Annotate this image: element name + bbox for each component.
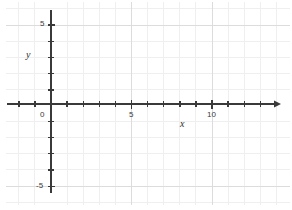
y-axis-label: y — [26, 50, 30, 60]
coordinate-plane-figure: 5 -5 0 5 10 y x — [0, 0, 292, 210]
plot-canvas — [0, 0, 292, 210]
x-axis-arrow-icon — [274, 101, 281, 108]
x-axis-label: x — [180, 119, 184, 129]
x-tick-label-0: 0 — [40, 111, 44, 119]
x-tick-label-5: 5 — [129, 111, 133, 119]
x-tick-label-10: 10 — [207, 111, 216, 119]
y-tick-label-minus-5: -5 — [36, 182, 43, 190]
y-tick-label-5: 5 — [40, 20, 44, 28]
